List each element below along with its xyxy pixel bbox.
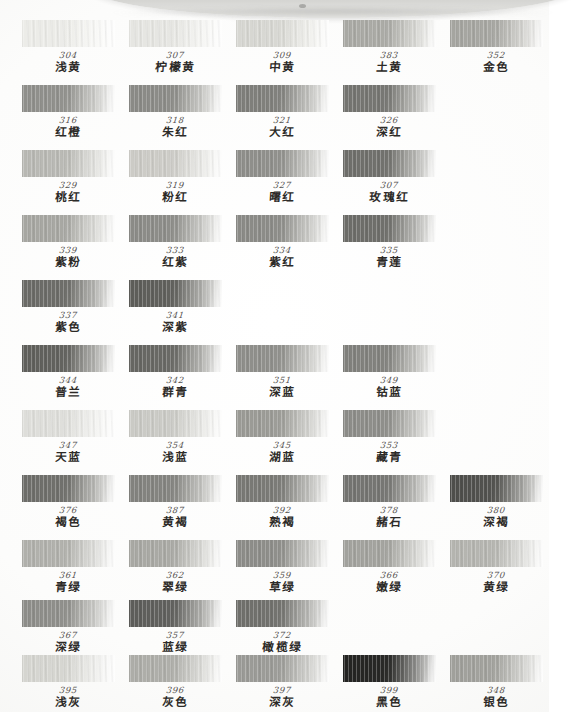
- swatch-color-chip[interactable]: [22, 280, 115, 307]
- swatch-color-chip[interactable]: [236, 215, 329, 242]
- swatch-color-chip[interactable]: [343, 150, 436, 177]
- swatch-color-chip[interactable]: [129, 215, 222, 242]
- swatch-color-chip[interactable]: [22, 600, 115, 627]
- swatch-cell[interactable]: 359草绿: [236, 540, 329, 593]
- swatch-color-chip[interactable]: [22, 410, 115, 437]
- swatch-row: 361青绿362翠绿359草绿366嫩绿370黄绿: [0, 540, 549, 605]
- swatch-cell[interactable]: 304浅黄: [22, 20, 115, 73]
- swatch-color-chip[interactable]: [129, 345, 222, 372]
- swatch-color-chip[interactable]: [129, 20, 222, 47]
- swatch-color-chip[interactable]: [236, 20, 329, 47]
- swatch-color-chip[interactable]: [22, 540, 115, 567]
- swatch-color-chip[interactable]: [343, 215, 436, 242]
- swatch-cell[interactable]: 395浅灰: [22, 655, 115, 708]
- swatch-cell[interactable]: 344普兰: [22, 345, 115, 398]
- swatch-color-chip[interactable]: [343, 655, 436, 682]
- swatch-cell[interactable]: 316红橙: [22, 85, 115, 138]
- swatch-cell[interactable]: 378赭石: [343, 475, 436, 528]
- swatch-cell[interactable]: 361青绿: [22, 540, 115, 593]
- swatch-color-chip[interactable]: [129, 85, 222, 112]
- swatch-name: 嫩绿: [343, 581, 437, 593]
- swatch-cell[interactable]: 357蓝绿: [129, 600, 222, 653]
- swatch-cell[interactable]: 353藏青: [343, 410, 436, 463]
- swatch-cell[interactable]: 396灰色: [129, 655, 222, 708]
- swatch-cell[interactable]: 372橄榄绿: [236, 600, 329, 653]
- swatch-color-chip[interactable]: [343, 540, 436, 567]
- swatch-color-chip[interactable]: [22, 20, 115, 47]
- swatch-row: 339紫粉333红紫334紫红335青莲: [0, 215, 549, 280]
- swatch-meta: 334紫红: [236, 246, 329, 268]
- swatch-color-chip[interactable]: [22, 150, 115, 177]
- swatch-name: 大红: [236, 126, 330, 138]
- swatch-color-chip[interactable]: [343, 20, 436, 47]
- swatch-cell[interactable]: 333红紫: [129, 215, 222, 268]
- swatch-color-chip[interactable]: [236, 345, 329, 372]
- swatch-color-chip[interactable]: [236, 410, 329, 437]
- swatch-name: 草绿: [236, 581, 330, 593]
- swatch-cell[interactable]: 354浅蓝: [129, 410, 222, 463]
- swatch-cell[interactable]: 387黄褐: [129, 475, 222, 528]
- swatch-color-chip[interactable]: [450, 655, 543, 682]
- swatch-color-chip[interactable]: [343, 85, 436, 112]
- swatch-cell[interactable]: 348银色: [450, 655, 543, 708]
- swatch-cell[interactable]: 370黄绿: [450, 540, 543, 593]
- swatch-cell[interactable]: 362翠绿: [129, 540, 222, 593]
- swatch-cell[interactable]: 351深蓝: [236, 345, 329, 398]
- swatch-color-chip[interactable]: [22, 475, 115, 502]
- swatch-cell[interactable]: 339紫粉: [22, 215, 115, 268]
- swatch-color-chip[interactable]: [129, 410, 222, 437]
- swatch-color-chip[interactable]: [129, 150, 222, 177]
- swatch-color-chip[interactable]: [22, 215, 115, 242]
- swatch-name: 湖蓝: [236, 451, 330, 463]
- swatch-cell[interactable]: 345湖蓝: [236, 410, 329, 463]
- swatch-color-chip[interactable]: [236, 655, 329, 682]
- swatch-color-chip[interactable]: [129, 655, 222, 682]
- swatch-cell[interactable]: 329桃红: [22, 150, 115, 203]
- swatch-name: 深灰: [236, 696, 330, 708]
- swatch-cell[interactable]: 366嫩绿: [343, 540, 436, 593]
- swatch-cell[interactable]: 326深红: [343, 85, 436, 138]
- swatch-color-chip[interactable]: [129, 600, 222, 627]
- swatch-color-chip[interactable]: [450, 540, 543, 567]
- swatch-color-chip[interactable]: [236, 600, 329, 627]
- swatch-color-chip[interactable]: [236, 475, 329, 502]
- swatch-color-chip[interactable]: [343, 410, 436, 437]
- swatch-color-chip[interactable]: [22, 85, 115, 112]
- swatch-color-chip[interactable]: [236, 85, 329, 112]
- swatch-color-chip[interactable]: [450, 20, 543, 47]
- swatch-color-chip[interactable]: [343, 345, 436, 372]
- swatch-cell[interactable]: 341深紫: [129, 280, 222, 333]
- swatch-cell[interactable]: 319粉红: [129, 150, 222, 203]
- swatch-cell[interactable]: 309中黄: [236, 20, 329, 73]
- swatch-cell[interactable]: 318朱红: [129, 85, 222, 138]
- swatch-cell[interactable]: 347天蓝: [22, 410, 115, 463]
- swatch-cell[interactable]: 337紫色: [22, 280, 115, 333]
- swatch-color-chip[interactable]: [22, 655, 115, 682]
- swatch-cell[interactable]: 349钴蓝: [343, 345, 436, 398]
- swatch-color-chip[interactable]: [236, 540, 329, 567]
- swatch-color-chip[interactable]: [236, 150, 329, 177]
- swatch-color-chip[interactable]: [22, 345, 115, 372]
- swatch-cell[interactable]: 397深灰: [236, 655, 329, 708]
- swatch-cell[interactable]: 307玫瑰红: [343, 150, 436, 203]
- swatch-color-chip[interactable]: [129, 540, 222, 567]
- swatch-cell[interactable]: 380深褐: [450, 475, 543, 528]
- swatch-cell[interactable]: 376褐色: [22, 475, 115, 528]
- swatch-cell[interactable]: 327曙红: [236, 150, 329, 203]
- swatch-cell[interactable]: 321大红: [236, 85, 329, 138]
- swatch-color-chip[interactable]: [450, 475, 543, 502]
- swatch-cell[interactable]: 392熟褐: [236, 475, 329, 528]
- swatch-cell[interactable]: 335青莲: [343, 215, 436, 268]
- swatch-meta: 362翠绿: [129, 571, 222, 593]
- swatch-cell[interactable]: 352金色: [450, 20, 543, 73]
- swatch-cell[interactable]: 383土黄: [343, 20, 436, 73]
- swatch-cell[interactable]: 307柠檬黄: [129, 20, 222, 73]
- swatch-cell[interactable]: 342群青: [129, 345, 222, 398]
- swatch-color-chip[interactable]: [129, 280, 222, 307]
- swatch-color-chip[interactable]: [129, 475, 222, 502]
- swatch-cell[interactable]: 399黑色: [343, 655, 436, 708]
- swatch-meta: 335青莲: [343, 246, 436, 268]
- swatch-cell[interactable]: 367深绿: [22, 600, 115, 653]
- swatch-color-chip[interactable]: [343, 475, 436, 502]
- swatch-cell[interactable]: 334紫红: [236, 215, 329, 268]
